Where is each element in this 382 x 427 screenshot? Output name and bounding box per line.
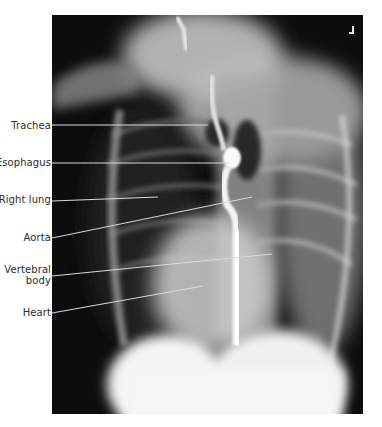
leader-lines <box>0 0 382 427</box>
leader-line-vertebral-body <box>52 254 272 276</box>
leader-line-aorta <box>52 197 252 238</box>
leader-line-heart <box>52 286 203 313</box>
label-vertebral-line1: Vertebral <box>4 264 51 275</box>
label-vertebral-body: Vertebral body <box>4 264 51 286</box>
leader-line-right-lung <box>52 197 158 201</box>
label-esophagus: Esophagus <box>0 157 51 168</box>
label-heart: Heart <box>23 307 51 318</box>
label-right-lung: Right lung <box>0 194 51 205</box>
label-vertebral-line2: body <box>4 275 51 286</box>
xray-figure: Trachea Esophagus Right lung Aorta Verte… <box>0 0 382 427</box>
label-trachea: Trachea <box>11 120 51 131</box>
label-aorta: Aorta <box>24 232 51 243</box>
